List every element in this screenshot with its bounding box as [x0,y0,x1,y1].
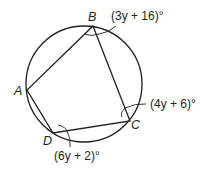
circle [26,26,142,142]
quadrilateral-abcd [27,26,130,133]
angle-label-c: (4y + 6)° [150,98,196,110]
point-label-a: A [14,85,22,98]
diagram-canvas: B A C D (3y + 16)° (4y + 6)° (6y + 2)° [0,0,204,177]
angle-arc-c [121,108,125,117]
point-label-c: C [131,119,140,132]
leader-c [125,104,146,108]
angle-arc-d [58,125,67,131]
point-label-b: B [88,11,96,24]
angle-label-d: (6y + 2)° [54,150,100,162]
point-label-d: D [43,135,52,148]
geometry-figure [0,0,204,177]
angle-label-b: (3y + 16)° [111,10,164,22]
leader-b [99,26,116,34]
